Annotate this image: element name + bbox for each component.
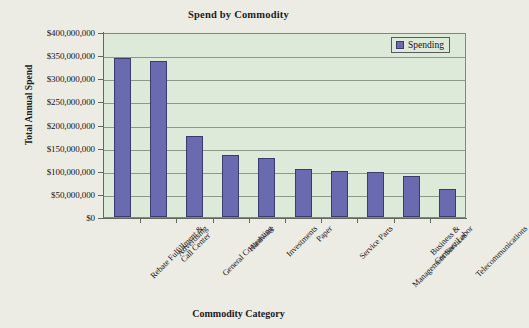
bar <box>331 171 348 217</box>
gridline <box>104 57 465 58</box>
x-tick-mark <box>176 218 177 223</box>
y-tick-label: $250,000,000 <box>47 97 95 107</box>
bar <box>222 155 239 217</box>
bar <box>295 169 312 217</box>
x-tick-mark <box>430 218 431 223</box>
plot-area <box>104 33 466 218</box>
bar <box>258 158 275 217</box>
x-tick-mark <box>140 218 141 223</box>
legend-swatch-spending <box>396 41 404 49</box>
y-tick-mark <box>98 102 104 103</box>
y-tick-label: $0 <box>86 213 95 223</box>
y-tick-label: $50,000,000 <box>51 190 95 200</box>
x-tick-mark <box>285 218 286 223</box>
bar <box>439 189 456 217</box>
bar <box>150 61 167 217</box>
y-tick-mark <box>98 126 104 127</box>
y-tick-label: $100,000,000 <box>47 167 95 177</box>
chart-legend: Spending <box>391 37 450 53</box>
bar <box>367 172 384 217</box>
x-tick-mark <box>321 218 322 223</box>
x-axis-category-label: Service Parts <box>358 224 395 261</box>
x-tick-mark <box>213 218 214 223</box>
chart-title: Spend by Commodity <box>0 9 477 20</box>
y-tick-mark <box>98 33 104 34</box>
y-tick-label: $300,000,000 <box>47 74 95 84</box>
y-tick-label: $400,000,000 <box>47 28 95 38</box>
bar <box>186 136 203 217</box>
y-tick-mark <box>98 218 104 219</box>
legend-label-spending: Spending <box>408 40 444 50</box>
y-tick-mark <box>98 172 104 173</box>
y-axis-title: Total Annual Spend <box>24 35 34 175</box>
bar <box>403 176 420 217</box>
y-tick-mark <box>98 195 104 196</box>
bar <box>114 58 131 217</box>
x-axis-category-label: Telecommunications <box>474 224 529 279</box>
y-tick-mark <box>98 79 104 80</box>
y-tick-mark <box>98 149 104 150</box>
y-tick-label: $150,000,000 <box>47 144 95 154</box>
x-tick-mark <box>394 218 395 223</box>
y-tick-label: $350,000,000 <box>47 51 95 61</box>
x-axis-category-label: Investments <box>285 224 320 259</box>
x-axis-title: Commodity Category <box>0 308 477 319</box>
x-tick-mark <box>249 218 250 223</box>
y-tick-mark <box>98 56 104 57</box>
x-tick-mark <box>357 218 358 223</box>
x-axis-category-label: Hardware <box>246 224 276 254</box>
y-tick-label: $200,000,000 <box>47 121 95 131</box>
x-axis-category-label: Paper <box>315 224 335 244</box>
